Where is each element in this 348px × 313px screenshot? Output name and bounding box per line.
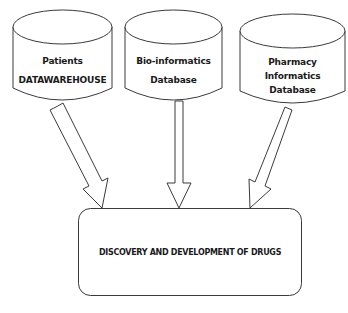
label-line: DATAWAREHOUSE (13, 74, 112, 87)
label-line: Pharmacy (240, 55, 345, 69)
label-bioinformatics-database: Bio-informatics Database (125, 55, 222, 87)
label-line: Patients (13, 55, 112, 68)
label-line: Informatics (240, 69, 345, 83)
arrow-pharmacy-to-drugs (249, 107, 292, 208)
arrow-patients-to-drugs (50, 103, 108, 208)
arrow-bioinformatics-to-drugs (167, 101, 191, 208)
label-line: Bio-informatics (125, 55, 222, 68)
label-line: Database (240, 83, 345, 97)
label-pharmacy-informatics-database: Pharmacy Informatics Database (240, 55, 345, 97)
label-patients-datawarehouse: Patients DATAWAREHOUSE (13, 55, 112, 87)
label-discovery-development-drugs: DISCOVERY AND DEVELOPMENT OF DRUGS (78, 208, 302, 296)
label-line: Database (125, 74, 222, 87)
